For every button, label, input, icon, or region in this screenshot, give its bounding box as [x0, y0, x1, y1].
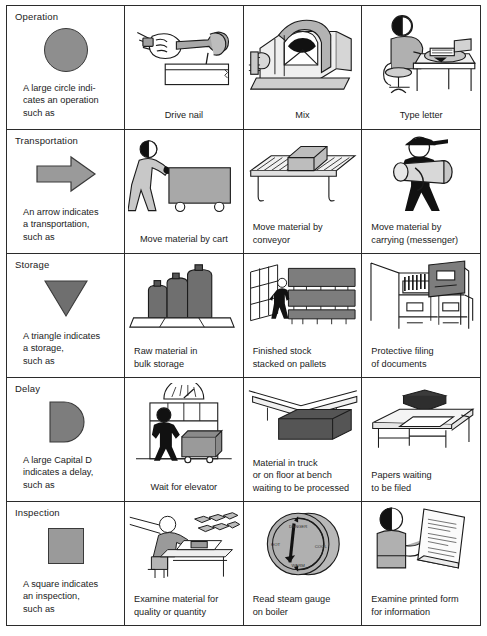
table-row: Operation A large circle indi- cates an … [7, 6, 480, 130]
table-row: Storage A triangle indicates a storage, … [7, 254, 480, 378]
symbol-definition-cell-storage: Storage A triangle indicates a storage, … [7, 254, 125, 377]
example-caption: Move material by carrying (messenger) [371, 221, 476, 246]
caption-line: Finished stock [253, 345, 358, 357]
caption-line: bulk storage [134, 358, 239, 370]
gauge-label-warm: WARM [292, 563, 306, 568]
category-title: Delay [15, 383, 40, 394]
example-caption: Raw material in bulk storage [134, 345, 239, 370]
example-cell-move-by-carrying: Move material by carrying (messenger) [362, 130, 480, 253]
example-caption: Read steam gauge on boiler [253, 593, 358, 618]
mixing-machine-icon [247, 9, 359, 99]
caption-line: carrying (messenger) [371, 234, 476, 246]
example-cell-type-letter: Type letter [362, 6, 480, 129]
definition-line: A large Capital D [23, 454, 118, 466]
symbol-operation [7, 24, 124, 76]
symbol-definition-cell-inspection: Inspection A square indicates an inspect… [7, 502, 125, 625]
person-typing-at-desk-icon [365, 9, 477, 99]
definition-line: such as [23, 231, 118, 243]
bulk-storage-tanks-icon [128, 257, 240, 335]
capital-d-icon [46, 400, 86, 444]
example-cell-protective-filing: Protective filing of documents [362, 254, 480, 377]
caption-line: Protective filing [371, 345, 476, 357]
table-row: Delay A large Capital D indicates a dela… [7, 378, 480, 502]
example-caption: Protective filing of documents [371, 345, 476, 370]
circle-icon [44, 28, 88, 72]
crate-under-bench-icon [247, 381, 359, 449]
example-caption: Move material by conveyor [253, 221, 358, 246]
caption-line: Examine printed form [371, 593, 476, 605]
definition-text: An arrow indicates a transportation, suc… [23, 206, 118, 243]
example-caption: Mix [248, 109, 358, 121]
example-caption: Type letter [366, 109, 476, 121]
definition-text: A large Capital D indicates a delay, suc… [23, 454, 118, 491]
example-cell-bulk-storage: Raw material in bulk storage [125, 254, 244, 377]
symbol-definition-cell-operation: Operation A large circle indi- cates an … [7, 6, 125, 129]
square-icon [48, 528, 84, 564]
caption-line: waiting to be processed [253, 482, 358, 494]
category-title: Transportation [15, 135, 78, 146]
person-reading-form-icon [365, 505, 477, 583]
example-caption: Wait for elevator [129, 481, 239, 493]
symbol-storage [7, 272, 124, 324]
roller-conveyor-with-box-icon [247, 133, 359, 211]
papers-stack-on-desk-icon [365, 381, 477, 459]
stacked-pallets-warehouse-icon [247, 257, 359, 335]
example-cell-wait-for-elevator: Wait for elevator [125, 378, 244, 501]
caption-line: on boiler [253, 606, 358, 618]
example-cell-move-by-cart: Move material by cart [125, 130, 244, 253]
caption-line: Read steam gauge [253, 593, 358, 605]
example-cell-drive-nail: Drive nail [125, 6, 244, 129]
example-cell-examine-material: Examine material for quality or quantity [125, 502, 244, 625]
gauge-label-danger: DANGER [289, 524, 307, 529]
hand-hammer-nail-icon [128, 9, 240, 99]
example-cell-mix: Mix [244, 6, 363, 129]
caption-line: Examine material for [134, 593, 239, 605]
example-cell-material-in-truck: Material in truck or on floor at bench w… [244, 378, 363, 501]
example-caption: Drive nail [129, 109, 239, 121]
pressure-gauge-dial-icon: DANGER HOT COOL WARM [247, 505, 359, 583]
definition-text: A large circle indi- cates an operation … [23, 82, 118, 119]
caption-line: Move material by [253, 221, 358, 233]
caption-line: conveyor [253, 234, 358, 246]
caption-line: of documents [371, 358, 476, 370]
example-caption: Papers waiting to be filed [371, 469, 476, 494]
example-caption: Material in truck or on floor at bench w… [253, 457, 358, 494]
definition-text: A triangle indicates a storage, such as [23, 330, 118, 367]
example-cell-examine-printed-form: Examine printed form for information [362, 502, 480, 625]
definition-line: cates an operation [23, 94, 118, 106]
symbol-definition-cell-transportation: Transportation An arrow indicates a tran… [7, 130, 125, 253]
example-caption: Examine material for quality or quantity [134, 593, 239, 618]
document-filing-shelves-icon [365, 257, 477, 335]
person-carrying-roll-icon [365, 133, 477, 211]
process-chart-symbols-table: Operation A large circle indi- cates an … [6, 5, 481, 626]
caption-line: to be filed [371, 482, 476, 494]
category-title: Operation [15, 11, 58, 22]
definition-line: a transportation, [23, 218, 118, 230]
example-cell-read-steam-gauge: DANGER HOT COOL WARM Read steam gauge on… [244, 502, 363, 625]
arrow-icon [35, 154, 97, 194]
person-waiting-at-elevator-icon [128, 381, 240, 471]
caption-line: or on floor at bench [253, 469, 358, 481]
inspector-at-bench-icon [128, 505, 240, 583]
caption-line: stacked on pallets [253, 358, 358, 370]
definition-line: A triangle indicates [23, 330, 118, 342]
example-caption: Examine printed form for information [371, 593, 476, 618]
caption-line: Raw material in [134, 345, 239, 357]
definition-line: a storage, [23, 342, 118, 354]
definition-line: such as [23, 603, 118, 615]
caption-line: Papers waiting [371, 469, 476, 481]
worker-pushing-cart-icon [128, 133, 240, 223]
definition-line: an inspection, [23, 590, 118, 602]
gauge-label-hot: HOT [271, 542, 280, 547]
triangle-icon [43, 278, 89, 318]
definition-line: A square indicates [23, 578, 118, 590]
example-caption: Move material by cart [129, 233, 239, 245]
gauge-label-cool: COOL [315, 544, 328, 549]
definition-line: An arrow indicates [23, 206, 118, 218]
caption-line: Material in truck [253, 457, 358, 469]
example-cell-move-by-conveyor: Move material by conveyor [244, 130, 363, 253]
example-caption: Finished stock stacked on pallets [253, 345, 358, 370]
caption-line: quality or quantity [134, 606, 239, 618]
category-title: Storage [15, 259, 49, 270]
category-title: Inspection [15, 507, 60, 518]
